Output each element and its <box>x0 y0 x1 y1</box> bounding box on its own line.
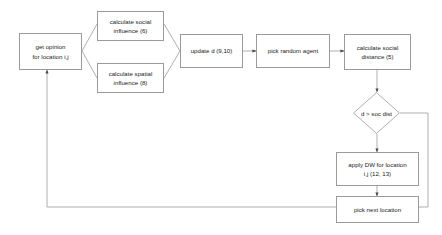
node-calculate-social-influence[interactable]: calculate social influence (6) <box>97 11 164 41</box>
edge-getopinion-to-socialinfluence <box>82 24 97 51</box>
node-get-opinion-label: get opinion for location i,j <box>30 42 70 61</box>
node-apply-dw-label: apply DW for location i,j (12, 13) <box>346 160 408 179</box>
node-calculate-spatial-influence[interactable]: calculate spatial influence (8) <box>97 63 164 93</box>
flowchart-diagram: get opinion for location i,j calculate s… <box>0 0 442 235</box>
edge-getopinion-to-spatialinfluence <box>82 51 97 78</box>
node-pick-next-location-label: pick next location <box>352 205 403 214</box>
node-pick-next-location[interactable]: pick next location <box>336 196 419 223</box>
node-calculate-social-distance[interactable]: calculate social distance (5) <box>344 34 411 70</box>
edge-socialinfluence-to-updated <box>164 24 180 51</box>
node-decision-soc-dist[interactable]: d > soc dist <box>353 92 400 134</box>
node-get-opinion[interactable]: get opinion for location i,j <box>19 33 82 70</box>
node-pick-random-agent[interactable]: pick random agent <box>256 34 330 68</box>
node-update-d-label: update d (9,10) <box>189 46 235 55</box>
node-calculate-social-distance-label: calculate social distance (5) <box>355 43 401 62</box>
edge-spatialinfluence-to-updated <box>164 51 180 78</box>
node-apply-dw[interactable]: apply DW for location i,j (12, 13) <box>336 152 419 186</box>
node-pick-random-agent-label: pick random agent <box>266 46 320 55</box>
node-decision-soc-dist-label: d > soc dist <box>360 110 393 117</box>
node-update-d[interactable]: update d (9,10) <box>180 34 243 68</box>
edge-picknextlocation-to-getopinion <box>47 70 348 207</box>
node-calculate-social-influence-label: calculate social influence (6) <box>108 17 154 36</box>
node-calculate-spatial-influence-label: calculate spatial influence (8) <box>107 69 155 88</box>
